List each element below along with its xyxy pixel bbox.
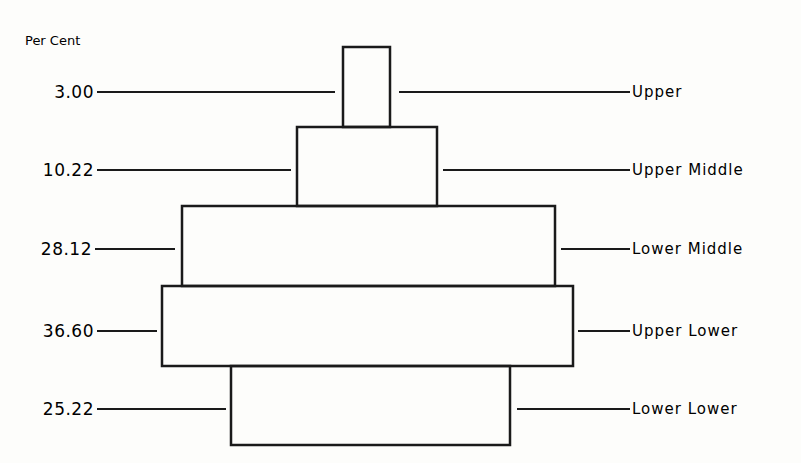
tier-bar	[182, 206, 555, 286]
tier-lower-middle: 28.12Lower Middle	[41, 206, 743, 286]
tier-bar	[343, 47, 390, 127]
tier-bar	[231, 366, 510, 445]
tier-lower-lower: 25.22Lower Lower	[43, 366, 738, 445]
axis-title: Per Cent	[25, 33, 80, 48]
tier-bar	[162, 286, 573, 366]
class-label: Upper Lower	[632, 322, 738, 340]
tier-upper: 3.00Upper	[54, 47, 682, 127]
tier-upper-lower: 36.60Upper Lower	[43, 286, 738, 366]
value-label: 36.60	[43, 321, 94, 341]
class-label: Upper	[632, 83, 682, 101]
value-label: 3.00	[54, 82, 94, 102]
tier-bar	[297, 127, 437, 206]
class-label: Lower Lower	[632, 400, 738, 418]
tier-upper-middle: 10.22Upper Middle	[43, 127, 744, 206]
social-class-pyramid-chart: Per Cent 3.00Upper10.22Upper Middle28.12…	[0, 0, 801, 463]
value-label: 25.22	[43, 399, 94, 419]
class-label: Lower Middle	[632, 240, 743, 258]
value-label: 28.12	[41, 239, 92, 259]
tiers-group: 3.00Upper10.22Upper Middle28.12Lower Mid…	[41, 47, 744, 445]
class-label: Upper Middle	[632, 161, 744, 179]
value-label: 10.22	[43, 160, 94, 180]
